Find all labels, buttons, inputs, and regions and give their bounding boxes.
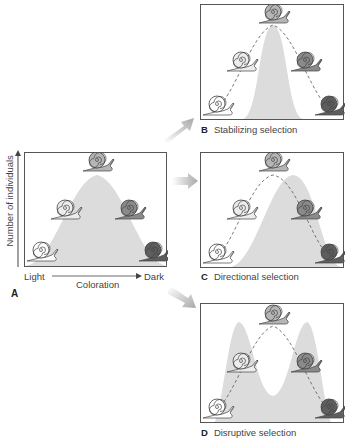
x-axis-right-label: Dark: [144, 271, 164, 282]
panel-d-graph: [201, 304, 345, 424]
panel-c-plot: [200, 152, 344, 268]
panel-b-graph: [201, 5, 345, 121]
panel-c-caption: CDirectional selection: [201, 271, 299, 282]
panel-c-letter: C: [201, 271, 208, 282]
population-curve: [243, 25, 303, 119]
arrow-to-d-icon: [164, 286, 200, 312]
panel-d-plot: [200, 303, 344, 423]
panel-d-letter: D: [201, 427, 208, 438]
panel-b-plot: [200, 4, 344, 120]
panel-d-caption: DDisruptive selection: [201, 427, 296, 438]
panel-a-letter: A: [11, 288, 18, 299]
y-axis-label: Number of individuals: [4, 157, 15, 247]
snail-icon-medium: [83, 153, 114, 171]
panel-b-letter: B: [201, 124, 208, 135]
arrow-to-c-icon: [168, 172, 200, 190]
panel-a-plot: [24, 152, 167, 267]
panel-c-caption-text: Directional selection: [214, 271, 299, 282]
panel-d-caption-text: Disruptive selection: [214, 427, 296, 438]
arrow-to-b-icon: [160, 112, 200, 144]
x-axis-left-label: Light: [24, 271, 45, 282]
panel-b-caption: BStabilizing selection: [201, 124, 297, 135]
x-axis-title: Coloration: [76, 279, 119, 290]
panel-a-graph: [25, 153, 168, 268]
panel-c-graph: [201, 153, 345, 269]
panel-b-caption-text: Stabilizing selection: [214, 124, 297, 135]
y-axis-arrow: [14, 150, 22, 268]
